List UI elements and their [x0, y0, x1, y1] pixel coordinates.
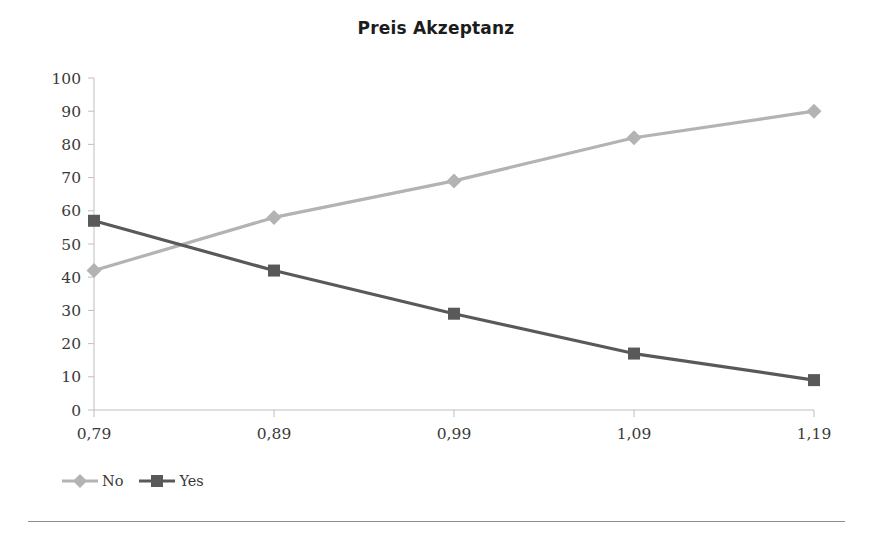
series-no	[87, 104, 822, 278]
y-axis-tick-label: 50	[61, 236, 81, 254]
data-point-marker	[267, 210, 282, 225]
data-point-marker	[87, 263, 102, 278]
footer-divider	[28, 521, 845, 522]
data-point-marker	[807, 104, 822, 119]
data-point-marker	[448, 308, 460, 320]
legend-marker-square-icon	[137, 472, 177, 490]
x-axis-tick-label: 1,19	[797, 425, 832, 443]
legend-entry-yes[interactable]: Yes	[137, 472, 203, 490]
x-axis-tick-label: 1,09	[617, 425, 652, 443]
y-axis-tick-label: 70	[61, 169, 81, 187]
data-point-marker	[268, 265, 280, 277]
data-point-marker	[808, 374, 820, 386]
series-line	[94, 221, 814, 380]
y-axis-tick-label: 0	[71, 402, 81, 420]
y-axis-tick-label: 30	[61, 302, 81, 320]
y-axis-tick-label: 60	[61, 202, 81, 220]
data-point-marker	[447, 173, 462, 188]
legend-marker-diamond-icon	[60, 472, 100, 490]
data-series-group	[87, 104, 822, 386]
legend-label: Yes	[179, 473, 203, 489]
x-axis-ticks	[94, 410, 814, 417]
x-axis-tick-labels: 0,790,890,991,091,19	[77, 425, 832, 443]
legend-entry-no[interactable]: No	[60, 472, 123, 490]
chart-plot-area: 0102030405060708090100 0,790,890,991,091…	[0, 0, 872, 470]
y-axis-tick-label: 90	[61, 103, 81, 121]
x-axis-tick-label: 0,89	[257, 425, 292, 443]
y-axis-tick-label: 40	[61, 269, 81, 287]
y-axis-tick-labels: 0102030405060708090100	[51, 70, 81, 420]
x-axis-tick-label: 0,99	[437, 425, 472, 443]
x-axis-tick-label: 0,79	[77, 425, 112, 443]
series-line	[94, 111, 814, 270]
y-axis-tick-label: 100	[51, 70, 81, 88]
legend-label: No	[102, 473, 123, 489]
data-point-marker	[88, 215, 100, 227]
chart-legend: NoYes	[60, 468, 204, 494]
y-axis-ticks	[88, 78, 94, 410]
line-chart-svg: 0102030405060708090100 0,790,890,991,091…	[0, 0, 872, 470]
y-axis-tick-label: 20	[61, 335, 81, 353]
y-axis-tick-label: 10	[61, 368, 81, 386]
chart-page: Preis Akzeptanz 0102030405060708090100 0…	[0, 0, 872, 541]
data-point-marker	[627, 130, 642, 145]
data-point-marker	[628, 348, 640, 360]
y-axis-tick-label: 80	[61, 136, 81, 154]
